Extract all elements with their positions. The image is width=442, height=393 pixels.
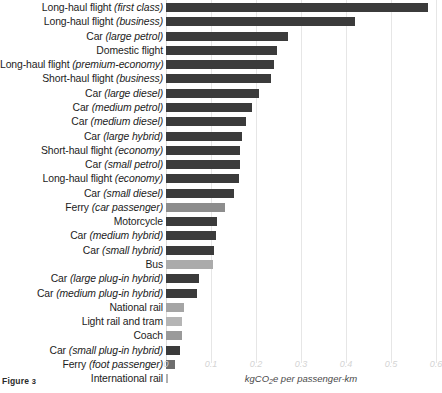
x-tick-label: 0.6 [430,359,442,370]
x-tick-label: 0.2 [250,359,263,370]
bar-category-label: Car (large hybrid) [0,131,163,143]
bar-category-label: Car (large diesel) [0,88,163,100]
x-axis-title: kgCO2e per passenger-km [166,373,436,385]
bar-category-label: Light rail and tram [0,316,163,328]
bar [166,203,225,212]
chart-row: Car (medium hybrid) [0,230,436,244]
bar-category-label: Coach [0,330,163,342]
bar [166,117,246,126]
chart-row: Car (small diesel) [0,188,436,202]
bar [166,274,199,283]
chart-row: Car (large hybrid) [0,131,436,145]
bar-category-label: Domestic flight [0,45,163,57]
bar [166,74,271,83]
bar-category-label: Car (large petrol) [0,31,163,43]
chart-row: Car (medium plug-in hybrid) [0,288,436,302]
bar-category-label: Short-haul flight (business) [0,73,163,85]
chart-row: Short-haul flight (economy) [0,145,436,159]
bar [166,174,239,183]
chart-row: National rail [0,302,436,316]
bar-category-label: Car (small plug-in hybrid) [0,345,163,357]
chart-row: Car (small hybrid) [0,245,436,259]
chart-row: Car (large plug-in hybrid) [0,273,436,287]
bar [166,32,288,41]
bar-category-label: Car (small hybrid) [0,245,163,257]
chart-row: Motorcycle [0,216,436,230]
bar [166,3,428,12]
bar-category-label: Long-haul flight (economy) [0,173,163,185]
x-tick-label: 0.3 [295,359,308,370]
bar-category-label: Short-haul flight (economy) [0,145,163,157]
x-tick-label: 0 [163,359,168,370]
chart-row: Car (small petrol) [0,159,436,173]
subscript-two: 2 [269,378,273,385]
chart-plot-area: Long-haul flight (first class)Long-haul … [0,0,436,360]
bar-category-label: Car (small petrol) [0,159,163,171]
chart-row: Long-haul flight (premium-economy) [0,59,436,73]
chart-row: Car (large petrol) [0,31,436,45]
chart-row: Bus [0,259,436,273]
x-tick-label: 0.1 [205,359,218,370]
bar [166,289,197,298]
chart-row: Ferry (car passenger) [0,202,436,216]
bar-category-label: Long-haul flight (first class) [0,2,163,14]
chart-row: Coach [0,330,436,344]
chart-row: Light rail and tram [0,316,436,330]
chart-row: Car (small plug-in hybrid) [0,345,436,359]
bar [166,246,214,255]
bar [166,217,217,226]
bar [166,160,240,169]
bar [166,17,355,26]
chart-row: Car (large diesel) [0,88,436,102]
bar-category-label: Car (medium hybrid) [0,230,163,242]
bar [166,89,259,98]
chart-row: Short-haul flight (business) [0,73,436,87]
bar [166,60,274,69]
bar [166,331,182,340]
bar-category-label: Car (small diesel) [0,188,163,200]
bar [166,132,242,141]
figure-caption: Figure 3 [2,376,36,386]
chart-row: Domestic flight [0,45,436,59]
chart-row: Car (medium diesel) [0,116,436,130]
bar-category-label: Car (medium diesel) [0,116,163,128]
bar-category-label: Motorcycle [0,216,163,228]
bar [166,346,180,355]
bar [166,46,277,55]
x-tick-label: 0.5 [385,359,398,370]
bar-category-label: Car (medium plug-in hybrid) [0,288,163,300]
x-tick-label: 0.4 [340,359,353,370]
bar-category-label: Car (medium petrol) [0,102,163,114]
bar [166,189,234,198]
chart-row: Long-haul flight (first class) [0,2,436,16]
figure-number: 3 [32,377,36,386]
bar-category-label: Long-haul flight (premium-economy) [0,59,163,71]
bar-category-label: Car (large plug-in hybrid) [0,273,163,285]
bar [166,317,182,326]
x-axis: kgCO2e per passenger-km 00.10.20.30.40.5… [0,359,436,393]
chart-row: Long-haul flight (economy) [0,173,436,187]
bar-category-label: National rail [0,302,163,314]
bar [166,303,184,312]
bar-category-label: Long-haul flight (business) [0,16,163,28]
bar-category-label: Bus [0,259,163,271]
bar [166,146,240,155]
chart-row: Car (medium petrol) [0,102,436,116]
bar [166,260,213,269]
bar [166,231,216,240]
chart-row: Long-haul flight (business) [0,16,436,30]
bar-category-label: Ferry (car passenger) [0,202,163,214]
bar [166,103,252,112]
